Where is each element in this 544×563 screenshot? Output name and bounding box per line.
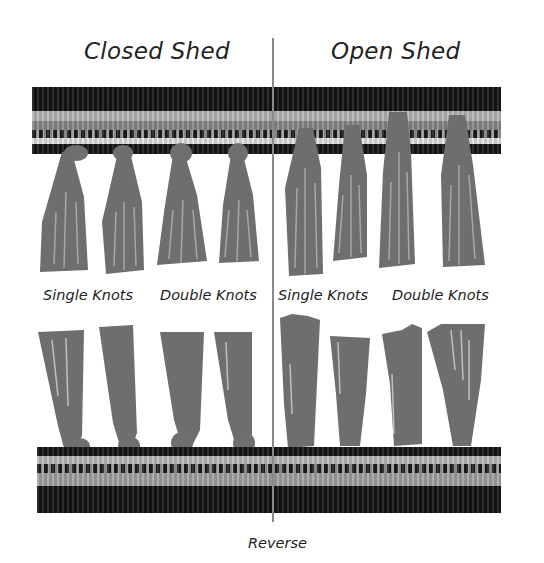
tassel-icon [36,326,88,448]
tassel-icon [382,324,424,448]
tassel-icon [160,330,206,448]
vertical-divider [272,38,274,522]
tassel-icon [283,128,329,278]
tassel-icon [330,334,372,448]
tassel-icon [214,330,254,448]
tassel-icon [215,155,261,267]
tassel-icon [377,112,421,272]
tassel-icon [97,323,139,451]
label-closed-single-knots: Single Knots [43,287,133,303]
open-shed-title: Open Shed [331,38,460,64]
label-closed-double-knots: Double Knots [160,287,257,303]
tassel-icon [427,320,487,448]
tassel-icon [36,152,92,274]
tassel-icon [437,115,487,271]
tassel-icon [278,314,322,450]
label-open-single-knots: Single Knots [278,287,368,303]
tassel-icon [155,155,209,267]
reverse-caption: Reverse [248,535,307,551]
tassel-icon [100,152,148,276]
label-open-double-knots: Double Knots [392,287,489,303]
top-woven-band [32,87,501,154]
closed-shed-title: Closed Shed [84,38,230,64]
bottom-woven-band [37,447,501,513]
tassel-icon [331,125,375,265]
